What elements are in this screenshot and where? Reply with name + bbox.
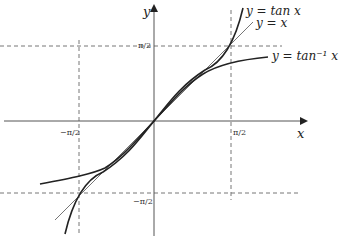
label-arctan: y = tan⁻¹ x xyxy=(271,49,338,63)
diagram-canvas: y x π/2 −π/2 −π/2 π/2 y = tan x y = x y … xyxy=(0,0,339,246)
tick-y-pi-over-2: π/2 xyxy=(138,41,151,50)
x-axis-label: x xyxy=(297,126,305,141)
label-identity: y = x xyxy=(255,16,287,30)
tick-x-pi-over-2: π/2 xyxy=(233,128,246,137)
tick-y-neg-pi-over-2: −π/2 xyxy=(133,197,153,206)
y-axis-label: y xyxy=(142,4,151,19)
tick-x-neg-pi-over-2: −π/2 xyxy=(60,128,80,137)
